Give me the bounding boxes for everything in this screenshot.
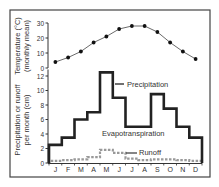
- svg-text:10: 10: [37, 87, 45, 94]
- precipitation-annotation: Precipitation: [115, 80, 168, 89]
- svg-text:A: A: [91, 166, 96, 173]
- precipitation-line: [49, 72, 202, 163]
- svg-text:S: S: [155, 166, 160, 173]
- runoff-annotation: Runoff: [126, 148, 162, 157]
- chart: 0102030 024681012 JFMAMJJASOND Temperatu…: [0, 0, 219, 187]
- svg-text:20: 20: [37, 35, 45, 42]
- svg-text:J: J: [117, 166, 121, 173]
- svg-text:A: A: [142, 166, 147, 173]
- svg-text:Precipitation: Precipitation: [127, 80, 168, 89]
- svg-text:M: M: [78, 166, 84, 173]
- temperature-axis-label: Temperature (°C): [13, 17, 22, 75]
- evapotranspiration-annotation: Evapotranspiration: [102, 129, 165, 138]
- svg-text:O: O: [167, 166, 173, 173]
- svg-text:D: D: [193, 166, 198, 173]
- temperature-line: [53, 24, 197, 64]
- runoff-line: [49, 150, 202, 163]
- svg-text:12: 12: [37, 73, 45, 80]
- svg-text:10: 10: [37, 50, 45, 57]
- svg-text:0: 0: [40, 160, 44, 167]
- svg-text:2: 2: [40, 145, 44, 152]
- svg-text:8: 8: [40, 102, 44, 109]
- svg-text:F: F: [66, 166, 70, 173]
- temperature-y-axis: 0102030: [37, 20, 48, 72]
- precipitation-y-axis: 024681012: [37, 69, 48, 166]
- svg-text:J: J: [130, 166, 134, 173]
- svg-text:0: 0: [40, 65, 44, 72]
- svg-text:30: 30: [37, 20, 45, 27]
- svg-text:Runoff: Runoff: [139, 148, 162, 157]
- precipitation-axis-label: Precipitation or runoff: [13, 84, 22, 156]
- svg-text:4: 4: [40, 131, 44, 138]
- svg-text:M: M: [103, 166, 109, 173]
- svg-text:J: J: [54, 166, 58, 173]
- month-x-axis: JFMAMJJASOND: [48, 163, 202, 173]
- svg-text:6: 6: [40, 116, 44, 123]
- svg-text:N: N: [180, 166, 185, 173]
- temperature-axis-sublabel: (monthly mean): [22, 19, 31, 72]
- precipitation-axis-sublabel: per month (cm): [22, 94, 31, 145]
